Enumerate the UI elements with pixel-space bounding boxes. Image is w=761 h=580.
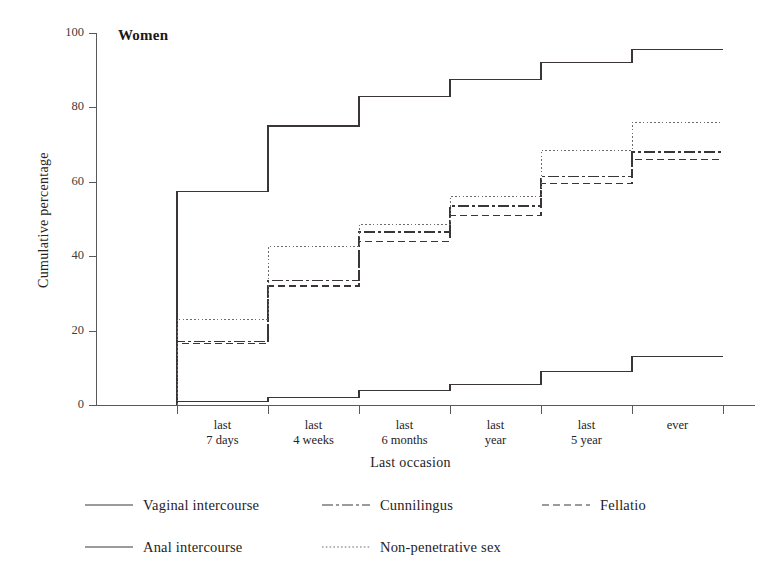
legend-swatch-nonpenetrative-icon	[322, 541, 370, 553]
legend-swatch-anal-icon	[85, 541, 133, 553]
series-line-anal-intercourse	[177, 357, 723, 405]
legend-label-anal: Anal intercourse	[143, 539, 242, 556]
legend-item-nonpenetrative[interactable]: Non-penetrative sex	[322, 534, 501, 560]
legend-label-fellatio: Fellatio	[600, 497, 646, 514]
legend-label-vaginal: Vaginal intercourse	[143, 497, 259, 514]
chart-figure: Women Cumulative percentage 020406080100…	[0, 0, 761, 580]
legend-label-nonpenetrative: Non-penetrative sex	[380, 539, 501, 556]
legend-row-bottom: Anal intercourseNon-penetrative sex	[0, 534, 761, 566]
series-line-non-penetrative-sex	[177, 122, 723, 405]
legend-swatch-fellatio-icon	[542, 499, 590, 511]
legend-row-top: Vaginal intercourseCunnilingusFellatio	[0, 492, 761, 524]
legend-swatch-vaginal-icon	[85, 499, 133, 511]
x-axis-title: Last occasion	[0, 455, 761, 471]
legend-label-cunnilingus: Cunnilingus	[380, 497, 453, 514]
legend-swatch-cunnilingus-icon	[322, 499, 370, 511]
legend-item-fellatio[interactable]: Fellatio	[542, 492, 646, 518]
chart-legend: Vaginal intercourseCunnilingusFellatio A…	[0, 492, 761, 572]
x-axis-title-text: Last occasion	[370, 455, 450, 471]
legend-item-vaginal[interactable]: Vaginal intercourse	[85, 492, 259, 518]
series-line-fellatio	[177, 159, 723, 405]
series-line-cunnilingus	[177, 152, 723, 405]
legend-item-cunnilingus[interactable]: Cunnilingus	[322, 492, 453, 518]
legend-item-anal[interactable]: Anal intercourse	[85, 534, 242, 560]
